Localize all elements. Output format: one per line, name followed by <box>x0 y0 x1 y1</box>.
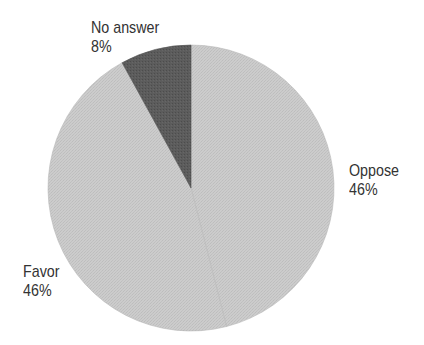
label-oppose-name: Oppose <box>349 161 399 180</box>
pie-chart: No answer 8% Oppose 46% Favor 46% <box>0 0 424 345</box>
label-oppose: Oppose 46% <box>349 161 399 199</box>
label-no-answer: No answer 8% <box>91 18 159 56</box>
label-oppose-pct: 46% <box>349 180 399 199</box>
label-no-answer-pct: 8% <box>91 37 159 56</box>
label-favor-name: Favor <box>23 262 60 281</box>
pie-slices <box>48 45 334 331</box>
label-no-answer-name: No answer <box>91 18 159 37</box>
label-favor-pct: 46% <box>23 281 60 300</box>
label-favor: Favor 46% <box>23 262 60 300</box>
